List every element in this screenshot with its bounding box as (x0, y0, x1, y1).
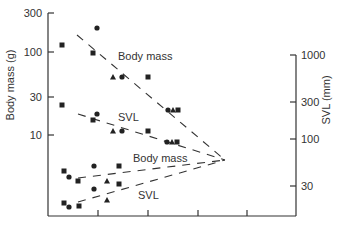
circle-marker (119, 74, 124, 79)
left-axis-label: Body mass (g) (4, 50, 16, 121)
square-marker (176, 108, 181, 113)
series-annotation: SVL (118, 111, 139, 123)
left-tick-label: 30 (30, 91, 42, 103)
left-tick-label: 300 (24, 7, 42, 19)
triangle-marker (169, 139, 175, 145)
square-marker (62, 201, 67, 206)
square-marker (77, 204, 82, 209)
triangle-marker (110, 128, 116, 134)
left-tick-label: 10 (30, 129, 42, 141)
triangle-marker (104, 197, 110, 203)
square-marker (117, 164, 122, 169)
axes (48, 13, 296, 216)
triangle-marker (104, 178, 110, 184)
square-marker (60, 103, 65, 108)
circle-marker (165, 107, 170, 112)
triangle-marker (110, 74, 116, 80)
ticks (48, 13, 296, 216)
square-marker (91, 51, 96, 56)
series-annotation: SVL (138, 189, 159, 201)
square-marker (60, 43, 65, 48)
circle-marker (94, 25, 99, 30)
circle-marker (66, 174, 71, 179)
circle-marker (91, 186, 96, 191)
circle-marker (91, 163, 96, 168)
square-marker (146, 75, 151, 80)
right-tick-label: 30 (301, 180, 313, 192)
left-tick-label: 100 (24, 46, 42, 58)
circle-marker (94, 111, 99, 116)
square-marker (146, 129, 151, 134)
chart: 3001003010100030010030 Body mass (g) SVL… (0, 0, 348, 229)
series-annotation: Body mass (133, 152, 188, 164)
circle-marker (119, 128, 124, 133)
triangle-marker (170, 107, 176, 113)
square-marker (117, 182, 122, 187)
right-tick-label: 100 (301, 133, 319, 145)
circle-marker (66, 204, 71, 209)
square-marker (175, 140, 180, 145)
right-tick-label: 300 (301, 96, 319, 108)
annotations: Body massSVLBody massSVL (118, 50, 188, 201)
right-axis-label: SVL (mm) (320, 75, 332, 124)
tick-labels: 3001003010100030010030 (24, 7, 326, 192)
circle-marker (164, 139, 169, 144)
square-marker (91, 118, 96, 123)
square-marker (62, 169, 67, 174)
series-annotation: Body mass (118, 50, 173, 62)
right-tick-label: 1000 (301, 49, 325, 61)
square-marker (76, 179, 81, 184)
